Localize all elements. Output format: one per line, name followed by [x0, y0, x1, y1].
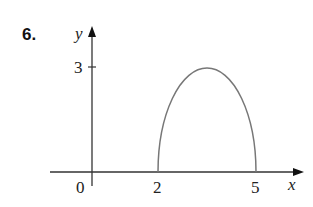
- y-axis-arrow-icon: [88, 26, 96, 37]
- y-tick-label-3: 3: [74, 58, 83, 77]
- x-tick-label-5: 5: [251, 178, 260, 197]
- y-axis-label: y: [73, 24, 83, 43]
- graph: y 3 0 2 5 x: [0, 0, 313, 207]
- x-axis-label: x: [287, 175, 296, 194]
- origin-label: 0: [76, 178, 85, 197]
- curve: [158, 68, 256, 172]
- x-tick-label-2: 2: [153, 178, 162, 197]
